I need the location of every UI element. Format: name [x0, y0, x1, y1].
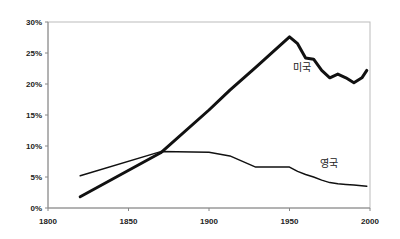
y-tick-label: 20% — [26, 80, 42, 89]
x-tick-label: 1850 — [120, 217, 138, 226]
x-tick-label: 2000 — [361, 217, 379, 226]
series-label-uk: 영국 — [320, 158, 338, 169]
x-tick-label: 1950 — [281, 217, 299, 226]
y-tick-label: 10% — [26, 142, 42, 151]
line-chart: 0%5%10%15%20%25%30%18001850190019502000 … — [0, 0, 400, 239]
series-lines — [80, 37, 367, 197]
axes: 0%5%10%15%20%25%30%18001850190019502000 — [26, 18, 379, 226]
y-tick-label: 25% — [26, 49, 42, 58]
y-tick-label: 0% — [30, 204, 42, 213]
series-label-us: 미국 — [293, 62, 311, 73]
x-tick-label: 1800 — [39, 217, 57, 226]
x-tick-label: 1900 — [200, 217, 218, 226]
y-tick-label: 30% — [26, 18, 42, 27]
series-line-us — [80, 37, 367, 197]
y-tick-label: 5% — [30, 173, 42, 182]
y-tick-label: 15% — [26, 111, 42, 120]
